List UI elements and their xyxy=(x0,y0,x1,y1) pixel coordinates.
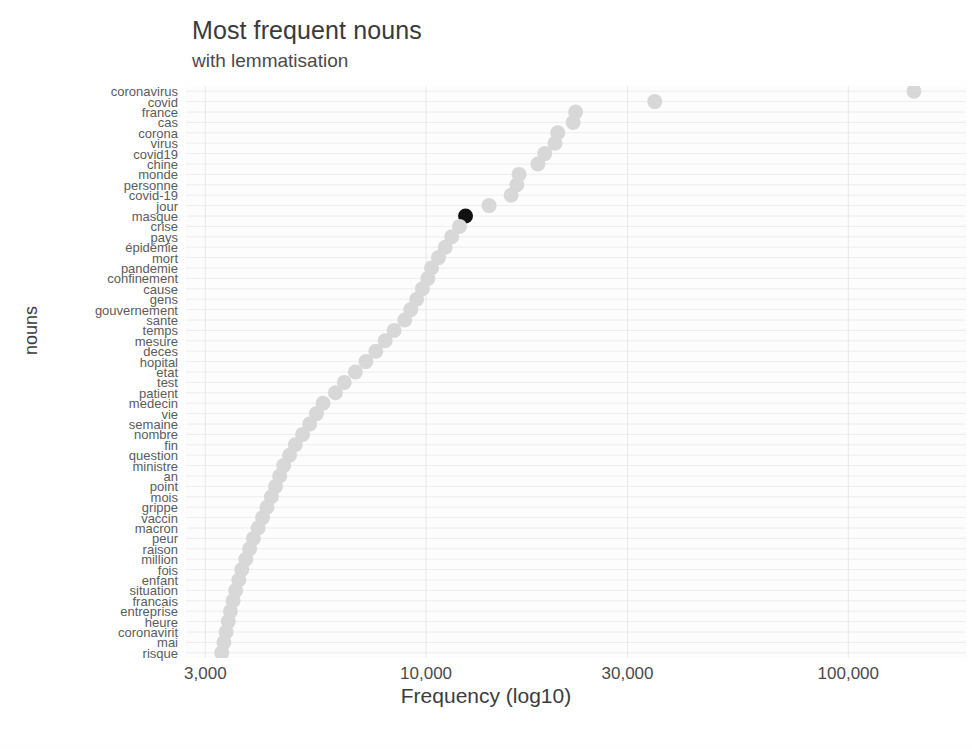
data-point xyxy=(647,94,662,109)
data-point xyxy=(504,188,519,203)
chart-title: Most frequent nouns xyxy=(192,16,422,45)
chart-subtitle: with lemmatisation xyxy=(192,50,348,72)
x-axis-title: Frequency (log10) xyxy=(0,684,972,708)
plot-area xyxy=(186,86,966,658)
plot-panel xyxy=(186,86,966,658)
x-axis-tick-label: 10,000 xyxy=(400,664,452,684)
y-axis-tick-label: risque xyxy=(143,646,178,659)
data-point xyxy=(482,198,497,213)
data-point xyxy=(348,365,363,380)
x-axis-tick-label: 100,000 xyxy=(818,664,879,684)
x-axis-tick-label: 3,000 xyxy=(184,664,227,684)
x-axis-tick-label: 30,000 xyxy=(602,664,654,684)
y-axis-tick-labels: coronaviruscovidfrancecascoronaviruscovi… xyxy=(0,86,182,658)
data-point xyxy=(566,115,581,130)
data-point xyxy=(328,385,343,400)
scatter-chart: Most frequent nouns with lemmatisation n… xyxy=(0,0,972,749)
data-point xyxy=(530,157,545,172)
data-point xyxy=(906,86,921,99)
